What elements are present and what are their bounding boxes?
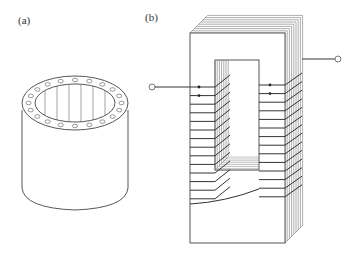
input-terminal	[149, 84, 190, 90]
laminated-core	[190, 15, 303, 243]
output-terminal	[302, 56, 341, 62]
cylinder-core	[22, 76, 128, 210]
figure-canvas	[0, 0, 360, 261]
